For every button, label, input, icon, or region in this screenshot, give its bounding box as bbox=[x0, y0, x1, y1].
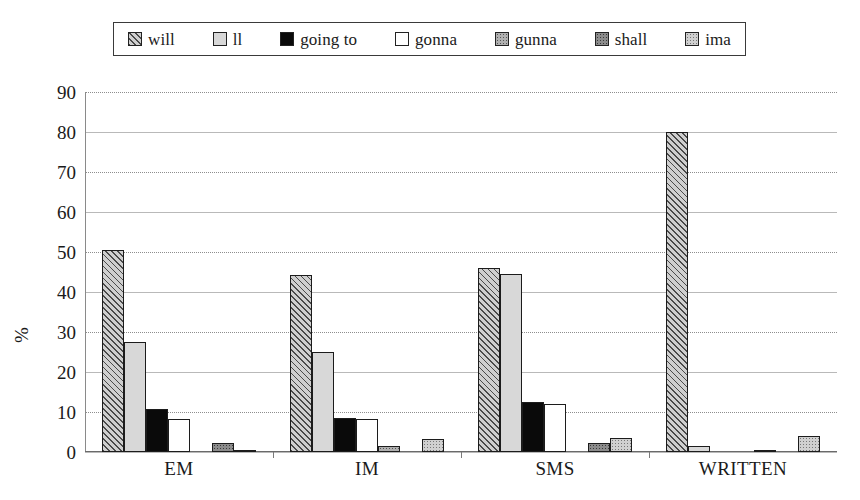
bar-written-ll[interactable] bbox=[688, 446, 710, 452]
bar-em-going-to[interactable] bbox=[146, 409, 168, 452]
y-axis-title: % bbox=[11, 327, 33, 343]
y-tick-label: 70 bbox=[36, 163, 76, 182]
bar-sms-going-to[interactable] bbox=[522, 402, 544, 452]
legend-item-going-to[interactable]: going to bbox=[280, 31, 357, 48]
bar-em-will[interactable] bbox=[102, 250, 124, 452]
y-axis-tick-labels: 9080706050403020100 bbox=[36, 76, 76, 500]
legend-swatch-gonna-icon bbox=[395, 32, 409, 46]
bar-sms-shall[interactable] bbox=[588, 443, 610, 452]
bar-im-will[interactable] bbox=[290, 275, 312, 452]
y-tick-label: 20 bbox=[36, 363, 76, 382]
y-tick-label: 50 bbox=[36, 243, 76, 262]
legend-label-gunna: gunna bbox=[515, 31, 557, 48]
bar-sms-gonna[interactable] bbox=[544, 404, 566, 452]
legend-item-ll[interactable]: ll bbox=[213, 31, 243, 48]
bar-im-gonna[interactable] bbox=[356, 419, 378, 452]
y-tick-label: 0 bbox=[36, 443, 76, 462]
legend-item-shall[interactable]: shall bbox=[595, 31, 648, 48]
y-tick-label: 10 bbox=[36, 403, 76, 422]
legend-label-gonna: gonna bbox=[415, 31, 457, 48]
chart-legend: will ll going to gonna gunna shall ima bbox=[113, 22, 746, 56]
bar-written-will[interactable] bbox=[666, 132, 688, 452]
legend-label-ima: ima bbox=[705, 31, 731, 48]
legend-label-going-to: going to bbox=[300, 31, 357, 48]
bar-sms-will[interactable] bbox=[478, 268, 500, 452]
legend-swatch-ll-icon bbox=[213, 32, 227, 46]
y-tick-label: 30 bbox=[36, 323, 76, 342]
bar-em-ima[interactable] bbox=[234, 450, 256, 452]
legend-item-gunna[interactable]: gunna bbox=[495, 31, 557, 48]
bar-written-gunna[interactable] bbox=[754, 450, 776, 452]
x-tick-label: SMS bbox=[461, 458, 649, 480]
plot-wrapper: % 9080706050403020100 EMIMSMSWRITTEN bbox=[0, 76, 860, 500]
y-tick-label: 40 bbox=[36, 283, 76, 302]
bar-group-written bbox=[649, 92, 837, 452]
legend-label-ll: ll bbox=[233, 31, 243, 48]
legend-swatch-ima-icon bbox=[685, 32, 699, 46]
x-tick-label: IM bbox=[273, 458, 461, 480]
bar-group-em bbox=[85, 92, 273, 452]
bar-written-ima[interactable] bbox=[798, 436, 820, 452]
legend-item-gonna[interactable]: gonna bbox=[395, 31, 457, 48]
bar-im-ll[interactable] bbox=[312, 352, 334, 452]
legend-item-will[interactable]: will bbox=[128, 31, 175, 48]
bar-group-im bbox=[273, 92, 461, 452]
bar-im-gunna[interactable] bbox=[378, 446, 400, 452]
legend-swatch-going-to-icon bbox=[280, 32, 294, 46]
y-tick-label: 90 bbox=[36, 83, 76, 102]
legend-label-shall: shall bbox=[615, 31, 648, 48]
bar-em-gonna[interactable] bbox=[168, 419, 190, 452]
legend-swatch-shall-icon bbox=[595, 32, 609, 46]
bar-chart: will ll going to gonna gunna shall ima % bbox=[0, 0, 860, 500]
bar-im-ima[interactable] bbox=[422, 439, 444, 452]
bar-groups bbox=[85, 92, 837, 452]
y-tick-label: 80 bbox=[36, 123, 76, 142]
legend-swatch-gunna-icon bbox=[495, 32, 509, 46]
bar-em-shall[interactable] bbox=[212, 443, 234, 452]
legend-item-ima[interactable]: ima bbox=[685, 31, 731, 48]
x-axis-tick-labels: EMIMSMSWRITTEN bbox=[85, 458, 837, 480]
bar-sms-ll[interactable] bbox=[500, 274, 522, 452]
legend-swatch-will-icon bbox=[128, 32, 142, 46]
y-tick-label: 60 bbox=[36, 203, 76, 222]
bar-group-sms bbox=[461, 92, 649, 452]
x-tick-label: EM bbox=[85, 458, 273, 480]
bar-im-going-to[interactable] bbox=[334, 418, 356, 452]
bar-em-ll[interactable] bbox=[124, 342, 146, 452]
legend-label-will: will bbox=[148, 31, 175, 48]
x-tick-label: WRITTEN bbox=[649, 458, 837, 480]
plot-area bbox=[85, 92, 837, 452]
bar-sms-ima[interactable] bbox=[610, 438, 632, 452]
